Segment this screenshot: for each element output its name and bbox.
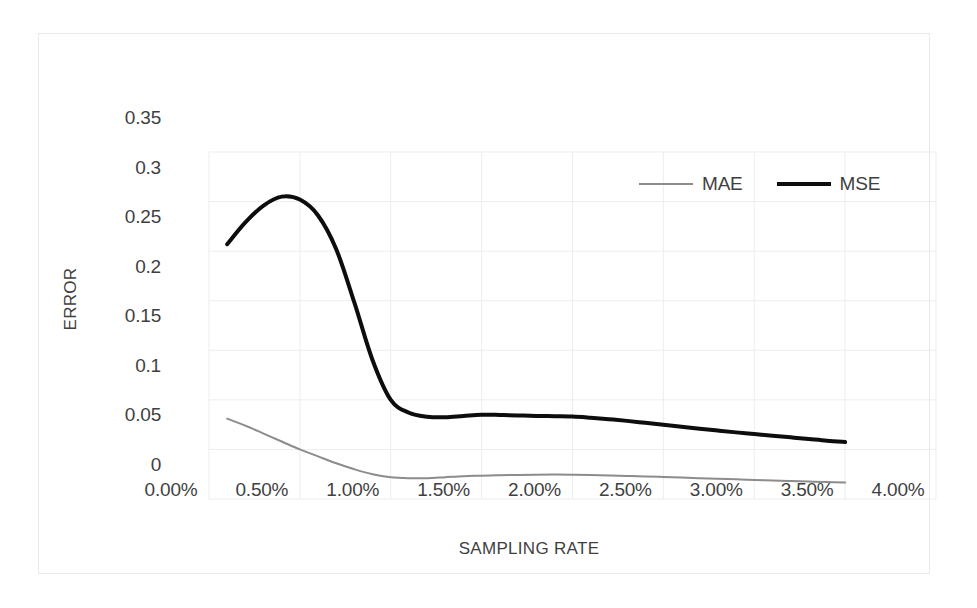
legend-item-mse[interactable]: MSE: [777, 173, 881, 195]
chart-frame: 0.350.30.250.20.150.10.050 0.00%0.50%1.0…: [38, 33, 930, 574]
x-tick-label: 3.50%: [757, 479, 857, 501]
legend-swatch-mse-icon: [777, 182, 831, 186]
x-tick-label: 2.50%: [575, 479, 675, 501]
y-tick-label: 0.05: [91, 404, 161, 426]
series-lines: [227, 196, 845, 482]
x-tick-label: 1.50%: [394, 479, 494, 501]
x-tick-label: 2.00%: [485, 479, 585, 501]
x-tick-label: 1.00%: [303, 479, 403, 501]
series-line-mae: [227, 419, 845, 483]
y-tick-label: 0.2: [91, 256, 161, 278]
y-tick-label: 0.1: [91, 355, 161, 377]
x-tick-label: 0.00%: [121, 479, 221, 501]
grid-lines: [209, 152, 936, 499]
y-axis-title: ERROR: [61, 239, 81, 359]
y-tick-label: 0.15: [91, 305, 161, 327]
chart-legend: MAE MSE: [639, 173, 880, 195]
y-tick-label: 0: [91, 454, 161, 476]
x-axis-title: SAMPLING RATE: [369, 539, 689, 559]
legend-label-mse: MSE: [840, 173, 881, 195]
y-tick-label: 0.25: [91, 206, 161, 228]
series-line-mse: [227, 196, 845, 442]
y-tick-label: 0.3: [91, 157, 161, 179]
x-tick-label: 4.00%: [848, 479, 948, 501]
y-tick-label: 0.35: [91, 107, 161, 129]
chart-plot-area: [39, 34, 977, 608]
legend-item-mae[interactable]: MAE: [639, 173, 743, 195]
legend-label-mae: MAE: [702, 173, 743, 195]
x-tick-label: 3.00%: [666, 479, 766, 501]
legend-swatch-mae-icon: [639, 183, 693, 185]
x-tick-label: 0.50%: [212, 479, 312, 501]
